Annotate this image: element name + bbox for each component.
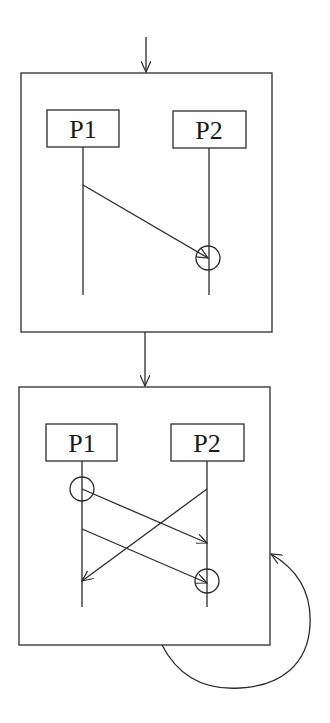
- diagram-canvas: P1 P2 P1 P2: [0, 0, 330, 723]
- process-label-p1: P1: [69, 115, 96, 144]
- process-label-p1: P1: [68, 429, 95, 458]
- self-loop-arrow: [162, 554, 310, 688]
- state-1-process-p1: P1: [47, 110, 119, 295]
- state-1-frame: [21, 73, 272, 332]
- message-arrow-p1-to-p2: [83, 185, 208, 258]
- state-2-frame-group: P1 P2: [19, 387, 270, 645]
- state-2-process-p1: P1: [46, 424, 117, 607]
- process-label-p2: P2: [193, 429, 220, 458]
- state-1-process-p2: P2: [173, 111, 246, 295]
- message-arrow-p1-to-p2-second: [82, 529, 207, 583]
- state-2-process-p2: P2: [171, 424, 244, 607]
- state-1-frame-group: P1 P2: [21, 73, 272, 332]
- process-label-p2: P2: [195, 116, 222, 145]
